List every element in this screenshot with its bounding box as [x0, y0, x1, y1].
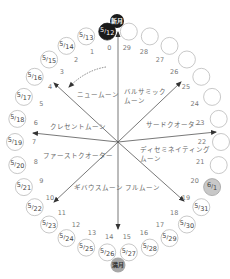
phase-label-full-moon: フルムーン [125, 184, 160, 192]
day-number: 18 [170, 209, 178, 217]
day-number: 8 [34, 158, 38, 166]
day-number: 5 [39, 100, 43, 108]
day-number: 27 [156, 56, 164, 64]
day-circle-group: 5/164 [26, 68, 52, 90]
day-number: 20 [191, 177, 199, 185]
moon-phase-diagram: ニュームーン クレセントムーン ファーストクオーター ギバウスムーン フルムーン… [0, 0, 230, 279]
day-circle-group: 5/219 [15, 177, 43, 196]
day-number: 14 [105, 233, 113, 241]
day-number: 17 [156, 221, 164, 229]
day-number: 4 [48, 83, 52, 91]
day-circle-group: 26 [170, 51, 195, 76]
day-circle-group: 5/2715 [120, 233, 137, 261]
day-circle-group: 5/142 [58, 37, 78, 64]
day-circle-group: 28 [140, 28, 158, 56]
day-circle-group: 29 [120, 23, 137, 52]
day-number: 3 [60, 68, 64, 76]
phase-label-balsamic: バルサミック [124, 88, 166, 96]
day-number: 19 [182, 194, 190, 202]
phase-label-balsamic-2: ムーン [124, 97, 145, 105]
day-number: 23 [196, 119, 204, 127]
phase-label-first-quarter: ファーストクオーター [43, 151, 113, 160]
day-circle-group: 5/3119 [182, 194, 210, 216]
day-circle [141, 28, 158, 45]
day-number: 9 [39, 177, 43, 185]
phase-label-third-quarter: サードクオーター [146, 120, 202, 129]
day-circle [120, 23, 137, 40]
arrow-left [33, 133, 118, 142]
day-circle-group: 5/2614 [99, 233, 116, 261]
day-circle-group: 27 [156, 37, 178, 64]
day-circle-group: 25 [182, 68, 210, 90]
day-circle-group: 5/153 [41, 51, 64, 76]
day-circle [210, 110, 227, 127]
day-number: 12 [72, 221, 80, 229]
day-circle-group: 5/197 [7, 134, 37, 151]
day-number: 1 [90, 48, 94, 56]
day-number: 25 [182, 83, 190, 91]
day-circle-group: 5/186 [9, 110, 38, 127]
day-number: 28 [140, 48, 148, 56]
day-circle-group: 5/175 [15, 88, 43, 107]
day-number: 2 [74, 56, 78, 64]
day-circle-group: 5/2311 [41, 209, 66, 233]
phase-labels: ニュームーン クレセントムーン ファーストクオーター ギバウスムーン フルムーン… [43, 88, 210, 192]
day-circle-group: 5/2816 [140, 229, 158, 256]
day-circle-group: 5/120 [99, 23, 116, 52]
day-circle [213, 134, 230, 151]
day-number: 24 [191, 100, 199, 108]
arrow-lower-left [54, 142, 118, 202]
day-circle-group: 5/3018 [170, 209, 195, 233]
day-number: 13 [88, 229, 96, 237]
new-moon-marker: 新月 [110, 14, 124, 28]
day-circle-group: 5/2513 [78, 229, 96, 256]
phase-label-disseminating-2: ムーン [140, 155, 161, 163]
day-circle [204, 88, 221, 105]
phase-label-new-moon: ニュームーン [77, 91, 119, 99]
day-circle [193, 68, 210, 85]
phase-label-disseminating: ディセミネイティング [140, 145, 210, 154]
new-moon-marker-label: 新月 [111, 17, 123, 25]
day-circle-group: 6/120 [191, 177, 221, 196]
day-number: 10 [46, 194, 54, 202]
day-circle [210, 157, 227, 174]
day-number: 29 [123, 44, 131, 52]
dashed-cycle-arrow [69, 67, 106, 87]
day-circle-group: 5/2412 [58, 221, 80, 247]
day-circle-group: 5/208 [9, 157, 38, 174]
day-circle-group: 21 [196, 157, 227, 174]
phase-label-crescent: クレセントムーン [50, 123, 106, 131]
day-number: 11 [58, 209, 66, 217]
phase-label-gibbous: ギバウスムーン [74, 184, 123, 192]
day-circle-group: 5/131 [78, 28, 95, 56]
day-circle [161, 37, 178, 54]
day-number: 15 [123, 233, 131, 241]
day-number: 6 [34, 119, 38, 127]
day-circle-group: 5/2917 [156, 221, 178, 247]
day-circle-group: 23 [196, 110, 227, 127]
day-circle-group: 24 [191, 88, 221, 107]
day-number: 7 [32, 138, 36, 146]
full-moon-marker-label: 満月 [112, 261, 124, 269]
day-number: 16 [140, 229, 148, 237]
full-moon-marker: 満月 [111, 258, 126, 273]
day-number: 0 [107, 44, 111, 52]
day-number: 22 [198, 138, 206, 146]
day-number: 26 [170, 68, 178, 76]
day-circle-group: 5/2210 [26, 194, 54, 216]
day-circle [178, 51, 195, 68]
day-number: 21 [196, 158, 204, 166]
